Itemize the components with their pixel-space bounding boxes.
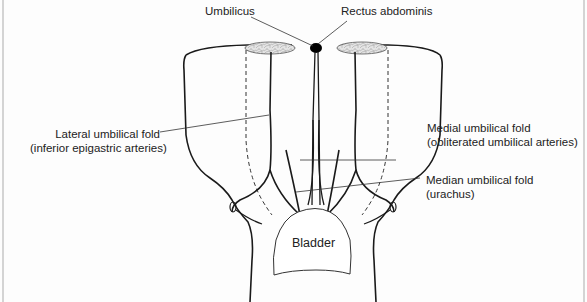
lateral-fold-detail: (inferior epigastric arteries) [30, 142, 160, 156]
leader-lateral [160, 115, 269, 132]
label-medial-umbilical-fold: Medial umbilical fold (obliterated umbil… [427, 122, 578, 149]
leader-rectus [318, 21, 347, 44]
median-fold-urachus [308, 52, 324, 205]
median-fold-name: Median umbilical fold [426, 174, 533, 188]
label-umbilicus: Umbilicus [205, 5, 255, 19]
medial-fold-detail: (obliterated umbilical arteries) [427, 136, 578, 150]
lateral-fold-dashed [246, 50, 388, 215]
lateral-fold-name: Lateral umbilical fold [30, 128, 160, 142]
label-bladder: Bladder [292, 237, 335, 251]
leader-umbilicus [251, 17, 313, 46]
umbilicus-marker [310, 43, 322, 53]
label-lateral-umbilical-fold: Lateral umbilical fold (inferior epigast… [30, 128, 160, 155]
label-rectus-abdominis: Rectus abdominis [341, 5, 432, 19]
diagram-canvas: Umbilicus Rectus abdominis Lateral umbil… [0, 0, 587, 302]
label-median-umbilical-fold: Median umbilical fold (urachus) [426, 174, 533, 201]
medial-fold-name: Medial umbilical fold [427, 122, 578, 136]
median-fold-detail: (urachus) [426, 188, 533, 202]
